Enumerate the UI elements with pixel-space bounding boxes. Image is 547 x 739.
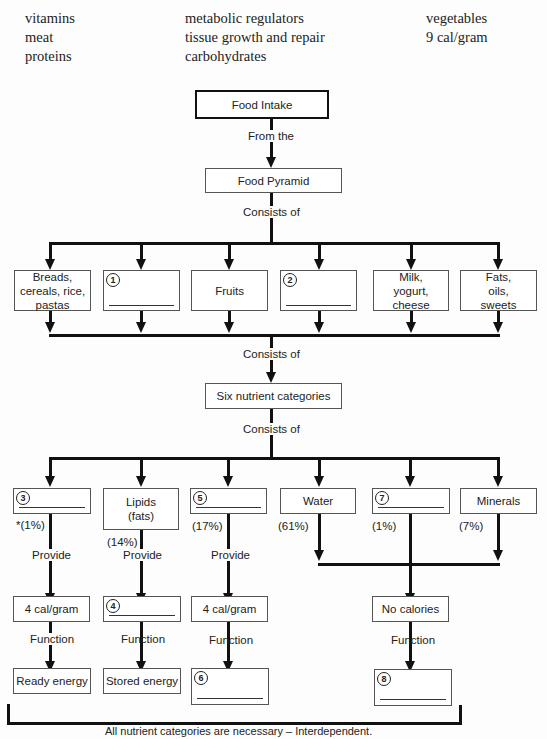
answer-line[interactable] [196,507,261,508]
arrow-down-icon [136,259,146,270]
function-label: Stored energy [106,674,178,688]
percent-label: *(1%) [16,519,45,531]
arrow-down-icon [493,476,503,487]
food-intake-label: Food Intake [232,98,293,112]
arrow-down-icon [224,259,234,270]
arrow-down-icon [45,476,55,487]
blank-6-box[interactable]: 6 [191,668,269,705]
food-group-fruits: Fruits [191,270,268,311]
calorie-label: No calories [382,602,440,616]
arrow-down-icon [314,476,324,487]
bracket-right [459,705,462,725]
branch-bar [49,457,500,460]
arrow-down-icon [405,476,415,487]
answer-line[interactable] [380,699,446,700]
arrow-down-icon [314,322,324,333]
food-pyramid-label: Food Pyramid [238,174,310,188]
link-label-function: Function [121,633,165,645]
arrow-down-icon [45,259,55,270]
food-group-label: Breads, cereals, rice, pastas [15,270,90,312]
nutrient-label: Water [303,494,333,508]
arrow-down-icon [406,322,416,333]
food-group-breads: Breads, cereals, rice, pastas [14,270,91,311]
nutrient-label: Lipids (fats) [121,495,161,523]
link-label-provide: Provide [123,549,162,561]
calorie-box: 4 cal/gram [13,596,90,622]
word-bank-item: proteins [25,47,75,66]
nutrient-categories-label: Six nutrient categories [217,389,331,403]
blank-3-box[interactable]: 3 [13,488,91,514]
word-bank-col2: metabolic regulators tissue growth and r… [185,9,325,66]
number-6-icon: 6 [194,671,208,685]
calorie-label: 4 cal/gram [203,602,257,616]
number-7-icon: 7 [375,491,389,505]
arrow-down-icon [314,259,324,270]
nutrient-lipids: Lipids (fats) [103,488,179,530]
link-label-consists: Consists of [243,348,300,360]
word-bank-item: vitamins [25,9,75,28]
footer-note: All nutrient categories are necessary – … [105,725,372,737]
link-label-consists: Consists of [243,206,300,218]
arrow-down-icon [493,259,503,270]
arrow-down-icon [493,322,503,333]
blank-7-box[interactable]: 7 [372,488,450,514]
link-label-consists: Consists of [243,423,300,435]
number-1-icon: 1 [106,273,120,287]
function-box: Stored energy [103,668,181,694]
nutrient-minerals: Minerals [460,488,537,514]
blank-4-box[interactable]: 4 [103,596,181,622]
food-group-milk: Milk, yogurt, cheese [373,270,449,311]
answer-line[interactable] [286,305,351,306]
answer-line[interactable] [197,698,263,699]
word-bank-item: vegetables [426,9,488,28]
food-group-label: Milk, yogurt, cheese [386,270,436,312]
number-2-icon: 2 [283,273,297,287]
link-label-function: Function [209,634,253,646]
branch-bar [49,242,500,245]
food-pyramid-box: Food Pyramid [205,168,342,193]
blank-8-box[interactable]: 8 [374,669,452,706]
link-label-provide: Provide [211,549,250,561]
link-label-function: Function [391,634,435,646]
number-8-icon: 8 [377,672,391,686]
arrow-down-icon [266,157,276,168]
word-bank-item: metabolic regulators [185,9,325,28]
link-label-from: From the [248,130,294,142]
percent-label: (14%) [107,536,138,548]
food-group-fats: Fats, oils, sweets [460,270,537,311]
calorie-label: 4 cal/gram [25,602,79,616]
number-3-icon: 3 [16,491,30,505]
blank-1-box[interactable]: 1 [103,270,180,311]
calorie-box: No calories [372,596,449,622]
function-label: Ready energy [16,674,88,688]
arrow-down-icon [136,476,146,487]
answer-line[interactable] [378,507,444,508]
calorie-box: 4 cal/gram [191,596,268,622]
answer-line[interactable] [109,615,175,616]
number-5-icon: 5 [193,491,207,505]
arrow-down-icon [493,550,503,561]
percent-label: (17%) [192,520,223,532]
word-bank-item: tissue growth and repair [185,28,325,47]
answer-line[interactable] [19,507,85,508]
arrow-down-icon [224,322,234,333]
merge-bar [49,334,500,337]
word-bank-item: 9 cal/gram [426,28,488,47]
arrow-down-icon [136,322,146,333]
word-bank-item: meat [25,28,75,47]
number-4-icon: 4 [106,599,120,613]
food-group-label: Fats, oils, sweets [479,270,519,312]
blank-5-box[interactable]: 5 [190,488,267,514]
answer-line[interactable] [109,305,174,306]
blank-2-box[interactable]: 2 [280,270,357,311]
link-label-provide: Provide [32,549,71,561]
link-label-function: Function [30,633,74,645]
word-bank-item: carbohydrates [185,47,325,66]
arrow-down-icon [45,322,55,333]
word-bank-col3: vegetables 9 cal/gram [426,9,488,47]
food-intake-box: Food Intake [195,90,329,119]
function-box: Ready energy [13,668,91,694]
nutrient-label: Minerals [477,494,520,508]
percent-label: (7%) [459,520,483,532]
arrow-down-icon [266,372,276,383]
